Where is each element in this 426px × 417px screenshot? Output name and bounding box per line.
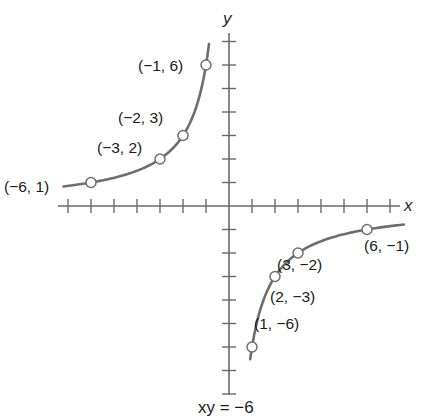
y-axis-label: y <box>222 9 233 28</box>
data-point-marker <box>155 154 165 164</box>
point-labels: (−6, 1)(−3, 2)(−2, 3)(−1, 6)(1, −6)(2, −… <box>4 57 409 332</box>
equation-caption: xy = −6 <box>198 398 254 417</box>
point-label: (3, −2) <box>277 256 322 273</box>
data-point-marker <box>270 272 280 282</box>
point-label: (−1, 6) <box>138 57 183 74</box>
point-label: (6, −1) <box>364 237 409 254</box>
data-point-marker <box>201 60 211 70</box>
data-point-marker <box>86 178 96 188</box>
data-point-marker <box>247 342 257 352</box>
point-label: (−6, 1) <box>4 178 49 195</box>
data-point-marker <box>178 131 188 141</box>
point-label: (1, −6) <box>254 315 299 332</box>
x-axis-label: x <box>403 196 413 215</box>
point-label: (2, −3) <box>270 288 315 305</box>
hyperbola-chart: (−6, 1)(−3, 2)(−2, 3)(−1, 6)(1, −6)(2, −… <box>0 0 426 417</box>
point-label: (−2, 3) <box>118 109 163 126</box>
point-label: (−3, 2) <box>97 139 142 156</box>
axes <box>58 33 400 395</box>
data-point-marker <box>362 225 372 235</box>
